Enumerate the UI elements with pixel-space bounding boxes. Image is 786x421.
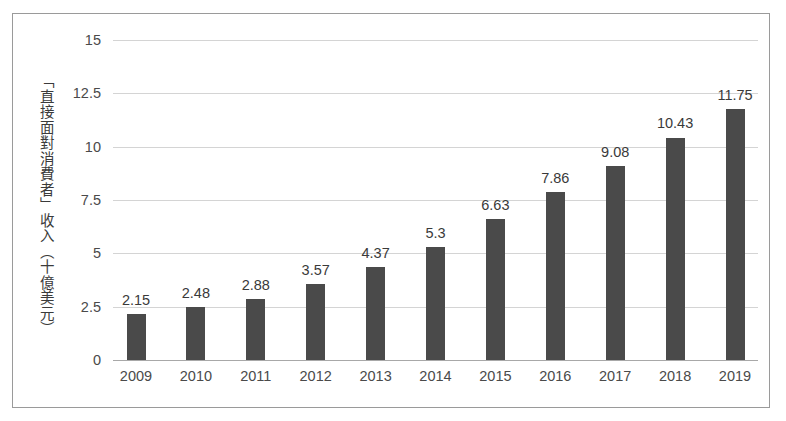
y-axis-tick-label: 12.5 (55, 85, 101, 101)
y-axis-tick-label: 2.5 (55, 299, 101, 315)
bar-value-label: 2.15 (106, 292, 166, 308)
bar[interactable] (246, 299, 265, 360)
bar[interactable] (546, 192, 565, 360)
bar[interactable] (486, 219, 505, 360)
x-axis-tick-label: 2013 (346, 368, 406, 384)
y-axis-title: 「直接面對消費者」收入（十億美元） (26, 62, 52, 347)
x-axis-tick-label: 2009 (106, 368, 166, 384)
bar[interactable] (366, 267, 385, 360)
x-axis-tick-label: 2018 (645, 368, 705, 384)
gridline (113, 93, 758, 94)
x-axis-tick-label: 2012 (286, 368, 346, 384)
bar[interactable] (726, 109, 745, 360)
x-axis-tick-label: 2014 (406, 368, 466, 384)
bar-value-label: 11.75 (705, 87, 765, 103)
bar-value-label: 4.37 (346, 245, 406, 261)
x-axis-tick-label: 2017 (585, 368, 645, 384)
x-axis-tick-label: 2010 (166, 368, 226, 384)
x-axis-tick-label: 2011 (226, 368, 286, 384)
bar-value-label: 3.57 (286, 262, 346, 278)
y-axis-tick-label: 15 (55, 32, 101, 48)
bar[interactable] (426, 247, 445, 360)
bar-value-label: 2.48 (166, 285, 226, 301)
bar[interactable] (606, 166, 625, 360)
y-axis-tick-label: 0 (55, 352, 101, 368)
y-axis-tick-labels: 02.557.51012.515 (55, 40, 101, 360)
bar-value-label: 5.3 (406, 225, 466, 241)
gridline (113, 200, 758, 201)
axis-baseline (113, 360, 758, 361)
x-axis-tick-labels: 2009201020112012201320142015201620172018… (113, 368, 758, 390)
y-axis-tick-label: 7.5 (55, 192, 101, 208)
plot-area: 2.152.482.883.574.375.36.637.869.0810.43… (113, 40, 758, 360)
y-axis-tick-label: 5 (55, 245, 101, 261)
bar[interactable] (127, 314, 146, 360)
y-axis-tick-label: 10 (55, 139, 101, 155)
x-axis-tick-label: 2019 (705, 368, 765, 384)
chart-figure: 「直接面對消費者」收入（十億美元） 02.557.51012.515 2.152… (0, 0, 786, 421)
bar[interactable] (306, 284, 325, 360)
x-axis-tick-label: 2016 (525, 368, 585, 384)
bar-value-label: 7.86 (525, 170, 585, 186)
x-axis-tick-label: 2015 (465, 368, 525, 384)
bar[interactable] (666, 138, 685, 361)
bar-value-label: 6.63 (465, 197, 525, 213)
bar-value-label: 2.88 (226, 277, 286, 293)
bar-value-label: 10.43 (645, 115, 705, 131)
bar[interactable] (186, 307, 205, 360)
gridline (113, 40, 758, 41)
gridline (113, 147, 758, 148)
bar-value-label: 9.08 (585, 144, 645, 160)
